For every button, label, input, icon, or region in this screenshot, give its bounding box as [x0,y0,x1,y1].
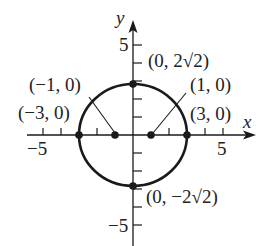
y-axis [129,20,143,246]
leader-line-focus-left [89,97,115,133]
point-covertex-top [129,80,137,88]
y-tick-label-neg5: −5 [108,215,128,236]
x-tick-label-neg5: −5 [27,138,47,159]
label-focus-left: (−1, 0) [29,74,81,96]
point-focus-right [147,131,155,139]
point-vertex-left [75,131,83,139]
x-axis-label: x [242,111,252,132]
point-vertex-right [183,131,191,139]
y-tick-label-5: 5 [119,34,129,55]
diagram-canvas: y x 5 −5 −5 5 (−1, 0) (−3, 0) (0, 2√2) (… [0,0,262,246]
y-axis-label: y [114,7,125,28]
label-vertex-right: (3, 0) [190,103,231,125]
label-vertex-left: (−3, 0) [18,102,70,124]
label-covertex-top: (0, 2√2) [148,50,209,72]
point-focus-left [111,131,119,139]
label-focus-right: (1, 0) [190,74,231,96]
label-covertex-bottom: (0, −2√2) [146,186,218,208]
ellipse-diagram: y x 5 −5 −5 5 (−1, 0) (−3, 0) (0, 2√2) (… [0,0,262,246]
point-covertex-bottom [129,182,137,190]
x-tick-label-5: 5 [217,138,227,159]
